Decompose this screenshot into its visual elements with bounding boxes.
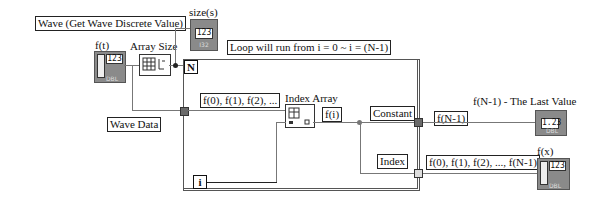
size-s-label: size(s) [189, 6, 218, 19]
last-type: DBL [543, 127, 561, 134]
count-terminal[interactable]: N [184, 60, 198, 74]
array-grid-icon [140, 55, 170, 75]
index-label: Index [377, 154, 408, 169]
f-series-partial-label: f(0), f(1), f(2), ... [200, 93, 280, 108]
array-size-node[interactable] [139, 54, 171, 76]
wire-junction [173, 63, 178, 68]
last-value-indicator[interactable]: 1.23 DBL [535, 110, 567, 136]
ft-type: DBL [103, 75, 121, 82]
iteration-terminal: i [193, 175, 207, 189]
size-indicator[interactable]: 123 I32 [190, 19, 218, 51]
indexing-tunnel [414, 169, 423, 178]
array-size-label: Array Size [130, 40, 177, 53]
f-series-full-label: f(0), f(1), f(2), ..., f(N-1) [426, 155, 540, 170]
wave-title-label: Wave (Get Wave Discrete Value) [35, 16, 186, 31]
last-value-label: f(N-1) - The Last Value [473, 95, 576, 108]
fn1-label: f(N-1) [434, 111, 468, 126]
fx-value: 123 [549, 161, 566, 171]
fx-type: DBL [546, 182, 564, 189]
index-array-icon [286, 105, 314, 127]
input-tunnel [180, 107, 189, 116]
index-array-node[interactable] [285, 104, 315, 128]
ft-value: 123 [106, 54, 123, 64]
last-value-tunnel [414, 118, 423, 127]
wave-data-label: Wave Data [107, 117, 161, 132]
size-value: 123 [195, 28, 213, 39]
fx-array-indicator[interactable]: 123 DBL [537, 158, 570, 190]
size-type: I32 [195, 41, 213, 48]
constant-label: Constant [370, 106, 415, 121]
loop-note-label: Loop will run from i = 0 ~ i = (N-1) [227, 40, 391, 55]
ft-array-control[interactable]: 123 DBL [94, 51, 126, 83]
fx-label: f(x) [537, 145, 554, 158]
fi-label: f(i) [322, 107, 342, 122]
